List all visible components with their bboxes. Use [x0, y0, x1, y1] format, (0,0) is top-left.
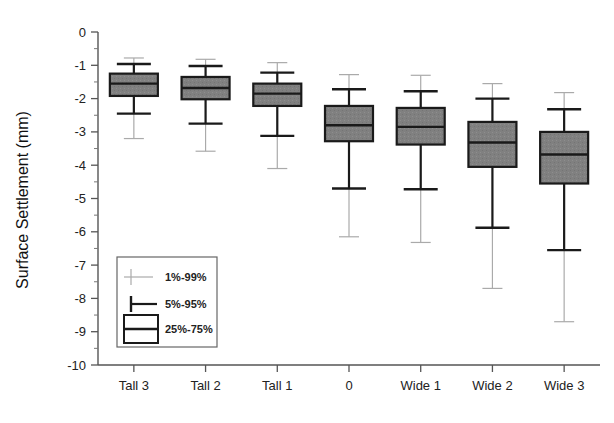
y-tick-label: -5	[74, 191, 86, 206]
y-tick-label: -4	[74, 158, 86, 173]
x-tick-label: 0	[345, 378, 352, 393]
x-tick-label: Tall 3	[119, 378, 149, 393]
y-tick-label: 0	[79, 25, 86, 40]
box-plot-item	[397, 75, 445, 242]
interquartile-box	[325, 106, 373, 141]
x-tick-label: Tall 2	[190, 378, 220, 393]
y-tick-label: -3	[74, 124, 86, 139]
box-plot-item	[540, 93, 588, 322]
box-plot-item	[325, 75, 373, 237]
y-axis-title: Surface Settlement (mm)	[14, 111, 31, 289]
y-tick-label: -7	[74, 258, 86, 273]
chart-root: 0-1-2-3-4-5-6-7-8-9-10 Tall 3Tall 2Tall …	[0, 0, 614, 423]
box-plot-item	[253, 63, 301, 169]
x-tick-label: Wide 3	[544, 378, 584, 393]
interquartile-box	[468, 122, 516, 167]
y-tick-label: -8	[74, 291, 86, 306]
y-tick-label: -9	[74, 324, 86, 339]
legend-label-p5_95: 5%-95%	[165, 298, 207, 310]
x-tick-label: Wide 2	[472, 378, 512, 393]
interquartile-box	[540, 132, 588, 184]
x-tick-label: Tall 1	[262, 378, 292, 393]
x-axis: Tall 3Tall 2Tall 10Wide 1Wide 2Wide 3	[98, 365, 600, 393]
y-tick-label: -10	[67, 358, 86, 373]
box-plot-item	[468, 84, 516, 289]
box-plot-chart: 0-1-2-3-4-5-6-7-8-9-10 Tall 3Tall 2Tall …	[0, 0, 614, 423]
legend-label-p1_99: 1%-99%	[165, 271, 207, 283]
chart-legend: 1%-99%5%-95%25%-75%	[117, 257, 217, 347]
box-plot-item	[110, 58, 158, 139]
x-tick-label: Wide 1	[400, 378, 440, 393]
y-tick-label: -1	[74, 58, 86, 73]
legend-label-p25_75: 25%-75%	[165, 323, 213, 335]
box-plot-item	[182, 59, 230, 151]
y-axis: 0-1-2-3-4-5-6-7-8-9-10	[67, 25, 98, 373]
y-tick-label: -6	[74, 224, 86, 239]
y-tick-label: -2	[74, 91, 86, 106]
